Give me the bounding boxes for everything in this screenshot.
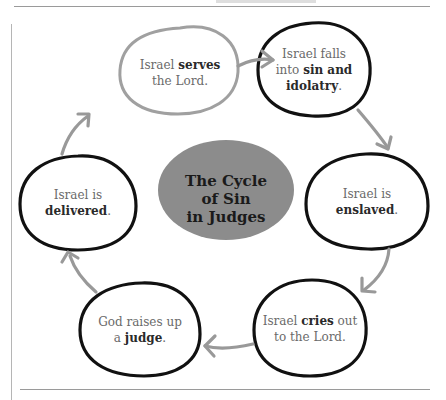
- node-text-bold: serves: [178, 58, 220, 72]
- node-text-bold: sin and: [303, 63, 352, 77]
- node-text-bold: idolatry: [286, 79, 338, 93]
- arrow-enslaved-to-cries: [364, 249, 389, 290]
- node-text-plain: God raises up: [80, 314, 200, 330]
- node-text-plain: out: [334, 314, 358, 328]
- node-cries: Israel cries out to the Lord.: [254, 313, 366, 345]
- node-text-bold: enslaved: [336, 203, 394, 217]
- node-text-plain: into: [276, 63, 303, 77]
- node-text-bold: judge: [125, 331, 162, 345]
- title-line-2: of Sin: [162, 190, 290, 208]
- node-text-plain: .: [107, 204, 111, 218]
- node-text-plain: Israel is: [306, 186, 428, 202]
- arrow-judge-to-delivered: [70, 256, 96, 292]
- arrow-delivered-to-serves: [62, 116, 88, 154]
- node-text-plain: Israel: [263, 314, 302, 328]
- node-text-plain: the Lord.: [122, 73, 238, 89]
- node-enslaved: Israel is enslaved.: [306, 186, 428, 218]
- node-text-plain: .: [162, 331, 166, 345]
- node-judge: God raises up a judge.: [80, 314, 200, 346]
- diagram-title: The Cycle of Sin in Judges: [162, 172, 290, 226]
- node-text-bold: cries: [301, 314, 334, 328]
- node-text-bold: delivered: [45, 204, 107, 218]
- node-sin: Israel falls into sin and idolatry.: [258, 46, 370, 94]
- title-line-1: The Cycle: [162, 172, 290, 190]
- title-line-3: in Judges: [162, 208, 290, 226]
- arrow-sin-to-enslaved: [358, 110, 388, 148]
- node-serves: Israel serves the Lord.: [122, 57, 238, 89]
- node-text-plain: a: [114, 331, 125, 345]
- node-text-plain: Israel: [140, 58, 179, 72]
- node-text-plain: .: [338, 79, 342, 93]
- node-text-plain: to the Lord.: [254, 329, 366, 345]
- node-text-plain: Israel is: [20, 187, 136, 203]
- node-delivered: Israel is delivered.: [20, 187, 136, 219]
- node-text-plain: .: [394, 203, 398, 217]
- arrow-cries-to-judge: [205, 344, 253, 348]
- node-text-plain: Israel falls: [258, 46, 370, 62]
